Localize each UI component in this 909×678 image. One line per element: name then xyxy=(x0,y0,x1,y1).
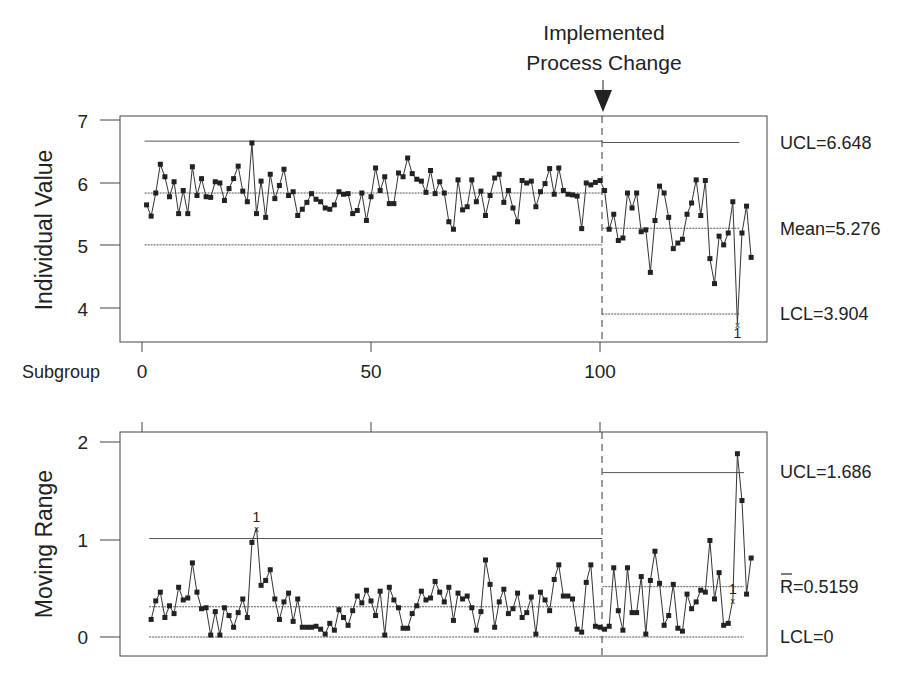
mr-rbar-label: R=0.5159 xyxy=(780,577,859,597)
svg-text:x: x xyxy=(731,596,736,606)
svg-text:100: 100 xyxy=(584,361,616,382)
svg-text:1: 1 xyxy=(77,530,88,551)
i-chart-ylabel: Individual Value xyxy=(31,150,57,311)
svg-text:50: 50 xyxy=(360,361,381,382)
annotation-arrow-icon xyxy=(594,80,612,112)
svg-text:x: x xyxy=(254,524,259,534)
mr-chart-series: x1x1 xyxy=(149,451,754,637)
i-mean-label: Mean=5.276 xyxy=(780,219,881,239)
svg-text:1: 1 xyxy=(253,509,261,525)
subgroup-axis: Subgroup 0 50 100 xyxy=(22,342,616,432)
i-ucl-label: UCL=6.648 xyxy=(780,133,872,153)
svg-text:4: 4 xyxy=(77,299,88,320)
i-chart-series: x1 xyxy=(144,141,754,341)
svg-text:5: 5 xyxy=(77,236,88,257)
mr-ucl-label: UCL=1.686 xyxy=(780,462,872,482)
control-chart: Implemented Process Change Individual Va… xyxy=(0,0,909,678)
svg-text:6: 6 xyxy=(77,174,88,195)
svg-text:7: 7 xyxy=(77,111,88,132)
mr-lcl-label: LCL=0 xyxy=(780,627,834,647)
annotation-line2: Process Change xyxy=(526,51,681,74)
svg-text:1: 1 xyxy=(729,581,737,597)
i-chart-limit-lines xyxy=(145,141,740,314)
subgroup-label: Subgroup xyxy=(22,362,100,382)
svg-text:1: 1 xyxy=(734,325,742,341)
mr-chart-yaxis: 2 1 0 xyxy=(77,432,120,648)
mr-chart-ylabel: Moving Range xyxy=(31,470,57,618)
i-chart-yaxis: 7 6 5 4 xyxy=(77,111,120,320)
i-lcl-label: LCL=3.904 xyxy=(780,304,869,324)
svg-text:0: 0 xyxy=(77,627,88,648)
svg-text:0: 0 xyxy=(137,361,148,382)
annotation-line1: Implemented xyxy=(543,21,664,44)
svg-text:2: 2 xyxy=(77,432,88,453)
